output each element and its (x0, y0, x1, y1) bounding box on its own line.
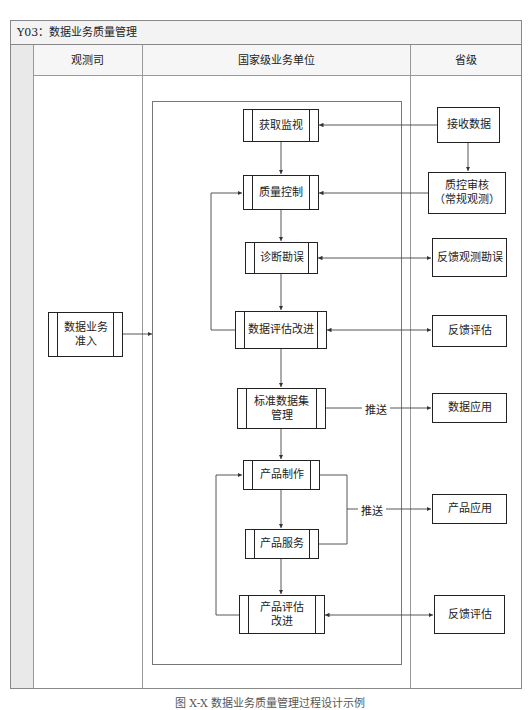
process-acquire-monitor[interactable]: 获取监视 (243, 109, 319, 142)
box-label: 数据业务准入 (64, 321, 108, 349)
box-label: 获取监视 (259, 119, 303, 133)
box-label: 质控审核（常规观测） (434, 179, 500, 207)
box-label: 质量控制 (259, 186, 303, 200)
edge-label-push-data: 推送 (362, 401, 390, 417)
process-product-service[interactable]: 产品服务 (245, 529, 319, 559)
process-product-make[interactable]: 产品制作 (243, 460, 320, 490)
box-data-application[interactable]: 数据应用 (432, 393, 507, 423)
box-label: 产品服务 (260, 537, 304, 551)
box-feedback-eval-product[interactable]: 反馈评估 (434, 595, 505, 634)
box-label: 接收数据 (447, 118, 491, 132)
process-standard-dataset[interactable]: 标准数据集管理 (237, 388, 326, 429)
process-data-access[interactable]: 数据业务准入 (48, 312, 123, 357)
box-feedback-obs-correct[interactable]: 反馈观测勘误 (432, 238, 507, 277)
box-label: 反馈评估 (448, 608, 492, 622)
box-label: 产品应用 (448, 502, 492, 516)
process-product-eval-improve[interactable]: 产品评估改进 (239, 595, 325, 634)
box-product-application[interactable]: 产品应用 (432, 494, 507, 524)
process-quality-control[interactable]: 质量控制 (243, 175, 319, 210)
edge-label-push-product: 推送 (358, 502, 386, 518)
box-label: 产品评估改进 (260, 601, 304, 629)
box-qc-review[interactable]: 质控审核（常规观测） (428, 172, 506, 214)
box-feedback-eval-data[interactable]: 反馈评估 (432, 315, 507, 347)
process-diagnose-correct[interactable]: 诊断勘误 (245, 242, 318, 274)
box-label: 产品制作 (260, 468, 304, 482)
box-label: 标准数据集管理 (254, 395, 309, 423)
figure-caption: 图 X-X 数据业务质量管理过程设计示例 (130, 694, 410, 708)
box-label: 数据评估改进 (248, 323, 314, 337)
box-label: 诊断勘误 (260, 251, 304, 265)
process-data-eval-improve[interactable]: 数据评估改进 (235, 311, 327, 349)
box-label: 反馈观测勘误 (437, 251, 503, 265)
box-receive-data[interactable]: 接收数据 (437, 107, 500, 143)
box-label: 反馈评估 (448, 324, 492, 338)
box-label: 数据应用 (448, 401, 492, 415)
